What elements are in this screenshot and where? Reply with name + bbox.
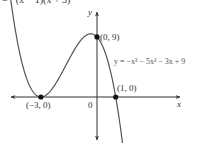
equation-label: y = −x³ − 5x² − 3x + 9 xyxy=(114,58,185,66)
origin-label: 0 xyxy=(88,101,93,110)
point-label-1-0: (1, 0) xyxy=(117,84,137,93)
cubic-curve xyxy=(9,0,125,143)
point-marker xyxy=(113,94,118,99)
point-label-0-9: (0, 9) xyxy=(100,33,120,42)
point-marker xyxy=(38,94,43,99)
x-axis-label: x xyxy=(177,100,181,109)
y-axis-label: y xyxy=(88,8,92,17)
point-marker xyxy=(94,34,99,39)
point-label-neg3-0: (−3, 0) xyxy=(26,101,51,110)
function-graph xyxy=(0,0,206,143)
